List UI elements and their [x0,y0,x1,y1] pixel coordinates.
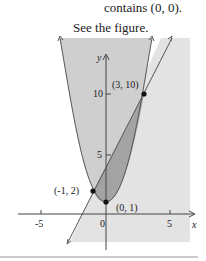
x-axis-label: x [191,219,197,230]
point-label: (-1, 2) [54,185,79,197]
y-axis-label: y [96,52,102,63]
x-tick-label: -5 [35,218,43,229]
figure-graph: -5 0 5 5 10 x y (-1, 2) (0, 1) (3, 10) [0,0,206,261]
x-tick-label: 0 [100,218,105,229]
y-tick-label: 10 [93,88,103,99]
point-marker [103,199,108,204]
point-marker [141,91,146,96]
x-tick-label: 5 [167,218,172,229]
point-marker [90,188,95,193]
point-label: (3, 10) [112,79,139,91]
point-label: (0, 1) [116,202,138,214]
y-tick-label: 5 [97,149,102,160]
